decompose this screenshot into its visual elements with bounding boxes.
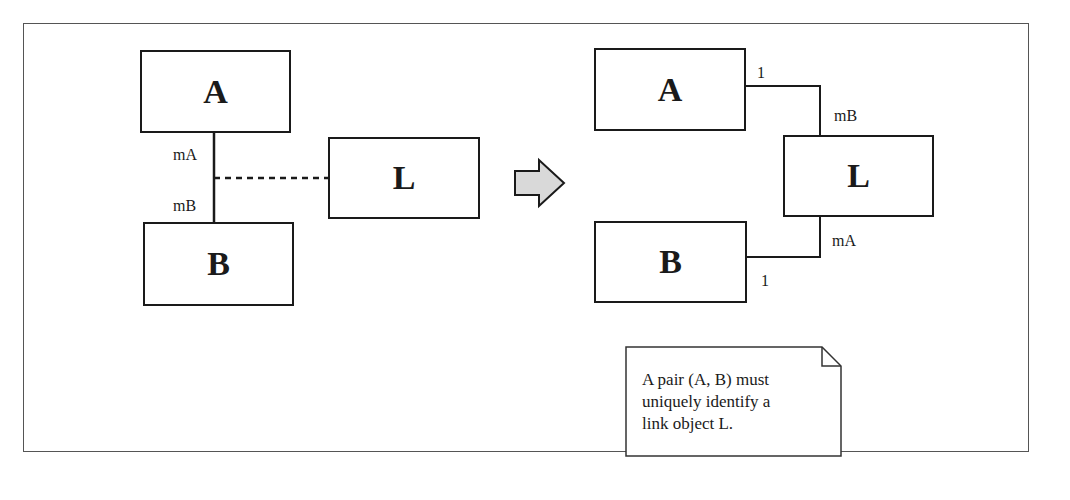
class-label-l: L [393, 159, 416, 197]
class-label-a: A [203, 73, 228, 111]
class-box-a-after: A [594, 48, 746, 131]
class-box-l-before: L [328, 137, 480, 219]
right-arrow-icon [515, 160, 564, 206]
constraint-note: A pair (A, B) must uniquely identify a l… [626, 347, 842, 457]
class-box-a-before: A [140, 50, 291, 133]
class-label-l: L [847, 157, 870, 195]
multiplicity-ma-before: mA [173, 147, 197, 163]
class-label-a: A [658, 71, 683, 109]
association-line-l-b [745, 215, 820, 257]
multiplicity-1-a-after: 1 [757, 65, 765, 81]
class-box-b-after: B [594, 221, 747, 303]
class-label-b: B [659, 243, 682, 281]
class-box-l-after: L [783, 135, 934, 217]
multiplicity-1-b-after: 1 [761, 273, 769, 289]
multiplicity-ma-after: mA [832, 233, 856, 249]
class-label-b: B [207, 245, 230, 283]
multiplicity-mb-after: mB [834, 108, 857, 124]
multiplicity-mb-before: mB [173, 198, 196, 214]
note-text: A pair (A, B) must uniquely identify a l… [642, 369, 770, 435]
class-box-b-before: B [143, 222, 294, 306]
association-line-a-l [745, 86, 820, 136]
